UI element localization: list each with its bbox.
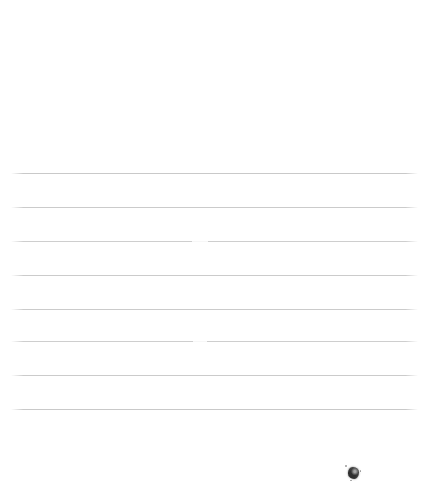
ruled-line [11, 275, 418, 276]
ruled-line [11, 409, 418, 410]
ink-smudge-mark [348, 467, 359, 479]
ink-fleck-icon [345, 465, 347, 467]
ruled-line [11, 375, 418, 376]
ruled-line [11, 241, 418, 242]
ruled-line [11, 207, 418, 208]
ruled-line [11, 309, 418, 310]
ruled-line [11, 341, 418, 342]
scanned-page [0, 0, 423, 481]
ink-fleck-icon [360, 470, 362, 472]
ruled-line [11, 173, 418, 174]
